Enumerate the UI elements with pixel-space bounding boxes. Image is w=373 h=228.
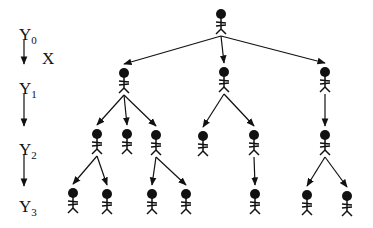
- level-label-y3: Y3: [19, 197, 37, 218]
- person-icon: [92, 129, 102, 154]
- edge-a-a2: [124, 95, 127, 125]
- edge-b2-b2a: [254, 157, 255, 185]
- person-icon: [68, 188, 78, 213]
- person-icon: [198, 131, 208, 156]
- person-icon: [219, 67, 229, 92]
- edge-c1-c1b: [325, 157, 347, 187]
- level-label-y0: Y0: [19, 25, 37, 46]
- person-icon: [250, 189, 260, 214]
- edge-a-a3: [124, 95, 156, 126]
- person-icon: [302, 190, 312, 215]
- person-icon: [122, 129, 132, 154]
- person-icon: [147, 189, 157, 214]
- level-axis: Y0 Y1 Y2 Y3 X: [19, 25, 54, 218]
- family-tree-diagram: Y0 Y1 Y2 Y3 X: [0, 0, 373, 228]
- person-icon: [249, 130, 259, 155]
- edge-b-b2: [224, 94, 254, 126]
- tree-edges: [73, 36, 347, 187]
- person-icon: [216, 9, 226, 34]
- person-icon: [320, 67, 330, 92]
- person-icon: [181, 189, 191, 214]
- edge-c1-c1a: [307, 157, 325, 186]
- edge-a1-a1a: [73, 156, 97, 184]
- edge-root-c: [221, 36, 325, 63]
- diagram-svg: Y0 Y1 Y2 Y3 X: [0, 0, 373, 228]
- x-label: X: [42, 49, 54, 68]
- edge-a1-a1b: [97, 156, 107, 185]
- person-icon: [119, 68, 129, 93]
- person-icon: [342, 191, 352, 216]
- edge-root-a: [124, 36, 221, 64]
- level-label-y1: Y1: [19, 79, 37, 100]
- edge-a3-a3a: [152, 157, 156, 185]
- level-label-y2: Y2: [19, 140, 37, 161]
- edge-b-b1: [203, 94, 224, 127]
- tree-nodes: [68, 9, 352, 216]
- person-icon: [320, 130, 330, 155]
- edge-a3-a3b: [156, 157, 186, 185]
- person-icon: [151, 130, 161, 155]
- edge-root-b: [221, 36, 224, 63]
- edge-a-a1: [97, 95, 124, 125]
- person-icon: [102, 189, 112, 214]
